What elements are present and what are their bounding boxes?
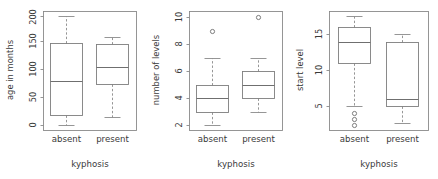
category-label-present: present bbox=[386, 134, 419, 144]
y-tick-label-6: 6 bbox=[174, 68, 184, 73]
boxplot-figure: age in months 0 50 100 150 200 bbox=[0, 0, 438, 179]
y-tick-label-5: 5 bbox=[314, 103, 324, 108]
y-axis-ticks bbox=[327, 35, 330, 107]
x-axis-title: kyphosis bbox=[217, 159, 255, 169]
y-tick-label-4: 4 bbox=[174, 95, 184, 100]
box-present bbox=[97, 38, 129, 118]
y-tick-label-15: 15 bbox=[314, 29, 324, 39]
category-label-absent: absent bbox=[340, 134, 370, 144]
y-tick-label-2: 2 bbox=[174, 122, 184, 127]
panel-number-svg: number of levels 2 4 6 8 10 bbox=[146, 0, 292, 179]
y-tick-label-0: 0 bbox=[28, 122, 38, 127]
panel-number-of-levels: number of levels 2 4 6 8 10 bbox=[146, 0, 292, 179]
panel-start-svg: start level 5 10 15 bbox=[292, 0, 438, 179]
x-axis-title: kyphosis bbox=[71, 159, 109, 169]
y-tick-label-100: 100 bbox=[28, 61, 38, 77]
box-present bbox=[243, 15, 275, 112]
y-axis-title: number of levels bbox=[151, 35, 161, 105]
outlier-point bbox=[256, 15, 260, 19]
box-present bbox=[387, 35, 419, 124]
box-absent bbox=[51, 17, 83, 126]
y-tick-label-50: 50 bbox=[28, 92, 38, 102]
y-tick-label-10: 10 bbox=[174, 12, 184, 22]
panel-start-level: start level 5 10 15 bbox=[292, 0, 438, 179]
y-axis-title: start level bbox=[295, 49, 305, 91]
box-absent bbox=[197, 29, 229, 125]
category-label-present: present bbox=[96, 134, 129, 144]
outlier-point bbox=[210, 29, 214, 33]
x-axis-title: kyphosis bbox=[360, 159, 398, 169]
y-tick-label-150: 150 bbox=[28, 33, 38, 49]
category-label-absent: absent bbox=[198, 134, 228, 144]
plot-frame bbox=[44, 12, 137, 131]
y-tick-label-8: 8 bbox=[174, 41, 184, 46]
outlier-point bbox=[352, 123, 356, 127]
category-label-present: present bbox=[242, 134, 275, 144]
y-tick-label-10: 10 bbox=[314, 65, 324, 75]
panel-age-in-months: age in months 0 50 100 150 200 bbox=[0, 0, 146, 179]
panel-age-svg: age in months 0 50 100 150 200 bbox=[0, 0, 146, 179]
outlier-point bbox=[352, 111, 356, 115]
y-axis-title: age in months bbox=[5, 40, 15, 100]
outlier-point bbox=[352, 117, 356, 121]
box-absent bbox=[339, 17, 371, 128]
category-label-absent: absent bbox=[52, 134, 82, 144]
plot-frame bbox=[330, 12, 429, 131]
y-tick-label-200: 200 bbox=[28, 9, 38, 25]
